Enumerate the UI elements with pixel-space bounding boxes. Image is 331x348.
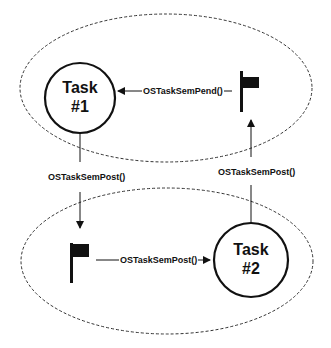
task1-label-line2: #1 xyxy=(45,97,115,116)
task2-label-line1: Task xyxy=(216,240,286,259)
semaphore-diagram: Task #1 Task #2 OSTaskSemPend() OSTaskSe… xyxy=(0,0,331,348)
task1-post-label: OSTaskSemPost() xyxy=(48,172,125,182)
task1-label: Task #1 xyxy=(45,78,115,116)
post-arrow-bottom-label: OSTaskSemPost() xyxy=(119,255,198,265)
task2-post-label: OSTaskSemPost() xyxy=(218,167,295,177)
task1-label-line1: Task xyxy=(45,78,115,97)
task2-label-line2: #2 xyxy=(216,259,286,278)
bottom-flag-icon xyxy=(70,243,89,283)
task2-label: Task #2 xyxy=(216,240,286,278)
top-flag-icon xyxy=(240,71,259,112)
pend-arrow-label: OSTaskSemPend() xyxy=(142,86,224,96)
